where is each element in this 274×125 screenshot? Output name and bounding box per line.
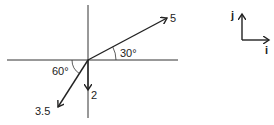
coordinate-axes [7, 5, 178, 118]
unit-vector-reference: j i [230, 9, 269, 56]
vector-diagram: 5 30° 2 3.5 60° j i [0, 0, 274, 125]
angle-30-label: 30° [120, 47, 137, 59]
angle-30-arc [113, 47, 116, 60]
i-unit-label: i [265, 44, 268, 56]
vector-5-label: 5 [170, 12, 176, 24]
angle-60-arc [72, 60, 80, 74]
vector-2-label: 2 [91, 89, 97, 101]
vector-3-5-label: 3.5 [35, 105, 50, 117]
j-unit-label: j [230, 9, 234, 21]
vector-5: 5 30° [88, 12, 176, 60]
vector-3-5: 3.5 60° [35, 60, 88, 117]
vector-2: 2 [88, 60, 97, 101]
angle-60-label: 60° [52, 65, 69, 77]
